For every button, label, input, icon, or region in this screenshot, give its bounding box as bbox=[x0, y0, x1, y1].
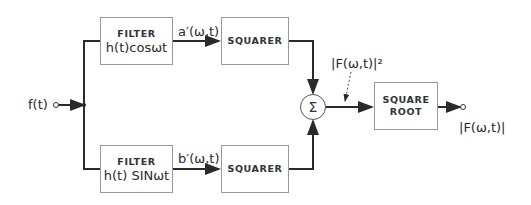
signal-a-prime: a′(ω,t) bbox=[178, 24, 219, 39]
squarer-bottom-title: SQUARER bbox=[227, 163, 282, 175]
square-root-title-1: SQUARE bbox=[382, 94, 429, 106]
filter-sin-title: FILTER bbox=[117, 156, 155, 168]
input-label: f(t) bbox=[28, 97, 48, 112]
filter-cos-title: FILTER bbox=[117, 28, 155, 40]
signal-magnitude-squared: |F(ω,t)|² bbox=[331, 56, 383, 71]
squarer-bottom-block: SQUARER bbox=[221, 145, 289, 193]
filter-cos-expr: h(t)cosωt bbox=[106, 40, 167, 55]
filter-sin-expr: h(t) SINωt bbox=[104, 168, 169, 183]
squarer-top-block: SQUARER bbox=[221, 17, 289, 65]
signal-magnitude: |F(ω,t)| bbox=[459, 120, 506, 135]
filter-sin-block: FILTER h(t) SINωt bbox=[100, 145, 173, 193]
square-root-block: SQUARE ROOT bbox=[374, 82, 438, 130]
signal-b-prime: b′(ω,t) bbox=[178, 151, 219, 166]
sigma-icon: Σ bbox=[309, 99, 318, 115]
output-terminal bbox=[461, 105, 466, 110]
summer-block: Σ bbox=[300, 94, 326, 120]
filter-cos-block: FILTER h(t)cosωt bbox=[100, 17, 173, 65]
input-terminal bbox=[54, 103, 59, 108]
square-root-title-2: ROOT bbox=[390, 106, 422, 118]
squarer-top-title: SQUARER bbox=[227, 35, 282, 47]
